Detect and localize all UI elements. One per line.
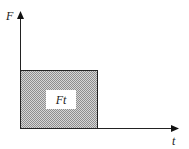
y-axis-arrowhead-icon bbox=[17, 11, 24, 19]
impulse-diagram: Ft F t bbox=[0, 0, 189, 149]
x-axis-label: t bbox=[172, 134, 176, 148]
area-label: Ft bbox=[55, 93, 67, 107]
y-axis-label: F bbox=[5, 9, 14, 23]
x-axis-arrowhead-icon bbox=[171, 125, 179, 132]
